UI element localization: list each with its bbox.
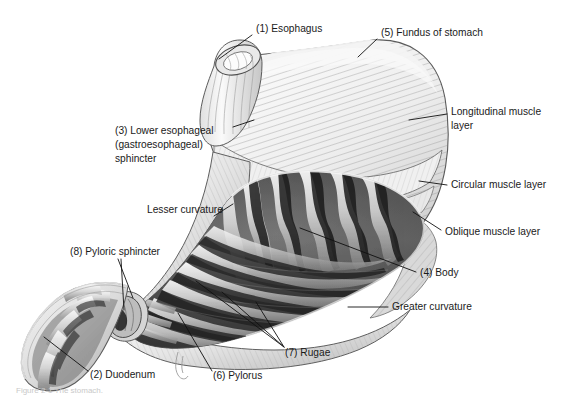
stomach-diagram-svg: (1) Esophagus (5) Fundus of stomach Long… xyxy=(0,0,567,396)
label-greater-curvature: Greater curvature xyxy=(392,301,472,312)
label-les-line1: (3) Lower esophageal xyxy=(115,125,214,136)
label-rugae: (7) Rugae xyxy=(285,347,331,358)
label-lesser-curvature: Lesser curvature xyxy=(147,204,223,215)
label-pylorus: (6) Pylorus xyxy=(213,370,262,381)
label-les-line3: sphincter xyxy=(115,153,157,164)
label-esophagus: (1) Esophagus xyxy=(256,23,322,34)
label-pyloric-sphincter: (8) Pyloric sphincter xyxy=(70,246,161,257)
label-les-line2: (gastroesophageal) xyxy=(115,139,203,150)
label-longitudinal-line2: layer xyxy=(451,120,474,131)
label-circular-muscle-layer: Circular muscle layer xyxy=(451,179,547,190)
stomach-anatomy-figure: (1) Esophagus (5) Fundus of stomach Long… xyxy=(0,0,567,396)
label-longitudinal-muscle-layer: Longitudinal muscle layer xyxy=(451,106,541,131)
figure-caption-partial: Figure 2-1 The stomach. xyxy=(16,386,103,395)
label-lower-esophageal-sphincter: (3) Lower esophageal (gastroesophageal) … xyxy=(115,125,214,164)
label-oblique-muscle-layer: Oblique muscle layer xyxy=(445,226,541,237)
label-body: (4) Body xyxy=(420,267,459,278)
label-duodenum: (2) Duodenum xyxy=(90,369,155,380)
label-longitudinal-line1: Longitudinal muscle xyxy=(451,106,541,117)
label-fundus-of-stomach: (5) Fundus of stomach xyxy=(381,27,483,38)
